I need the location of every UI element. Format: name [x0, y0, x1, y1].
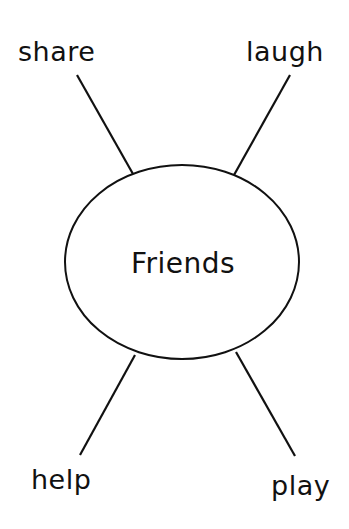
branch-label-play: play	[271, 472, 330, 499]
branch-label-laugh: laugh	[246, 38, 324, 65]
connector-line-laugh	[234, 75, 290, 175]
center-label: Friends	[131, 250, 235, 278]
connector-line-share	[77, 75, 133, 174]
connector-line-play	[236, 352, 295, 456]
branch-label-share: share	[18, 38, 95, 65]
connector-line-help	[80, 355, 135, 455]
branch-label-help: help	[31, 466, 91, 493]
